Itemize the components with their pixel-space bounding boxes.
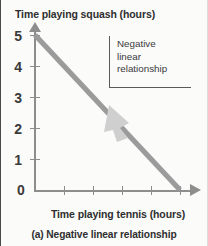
y-tick-label: 3 xyxy=(14,91,22,105)
y-tick-label: 2 xyxy=(14,122,22,136)
figure-caption: (a) Negative linear relationship xyxy=(1,229,207,240)
x-axis-title: Time playing tennis (hours) xyxy=(1,208,207,220)
annotation-box: Negative linear relationship xyxy=(109,36,191,88)
y-axis-title: Time playing squash (hours) xyxy=(15,8,155,20)
origin-tick-label: 0 xyxy=(17,183,25,197)
y-tick-label: 4 xyxy=(14,60,22,74)
y-tick-label: 5 xyxy=(14,29,22,43)
annotation-label: Negative linear relationship xyxy=(117,38,193,76)
figure-negative-linear-relationship: Time playing squash (hours) 1 2 3 4 5 0 … xyxy=(0,0,208,246)
x-axis-arrow-icon xyxy=(190,184,201,196)
y-tick-label: 1 xyxy=(14,153,22,167)
